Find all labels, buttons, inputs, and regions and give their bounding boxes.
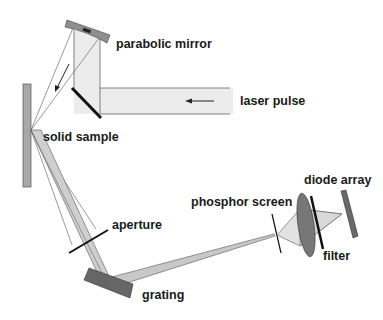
grating	[84, 268, 133, 298]
label-diode-array: diode array	[304, 174, 371, 187]
diode-array	[341, 190, 358, 238]
label-laser-pulse: laser pulse	[240, 95, 305, 108]
diffracted-beam	[108, 234, 275, 287]
label-solid-sample: solid sample	[43, 131, 119, 144]
label-filter: filter	[323, 250, 350, 263]
label-phosphor-screen: phosphor screen	[191, 196, 292, 209]
label-aperture: aperture	[112, 219, 162, 232]
harmonic-beam	[31, 130, 113, 285]
optical-setup-diagram: parabolic mirror laser pulse solid sampl…	[0, 0, 383, 320]
solid-sample	[23, 84, 31, 187]
label-grating: grating	[142, 289, 184, 302]
label-parabolic-mirror: parabolic mirror	[116, 38, 212, 51]
